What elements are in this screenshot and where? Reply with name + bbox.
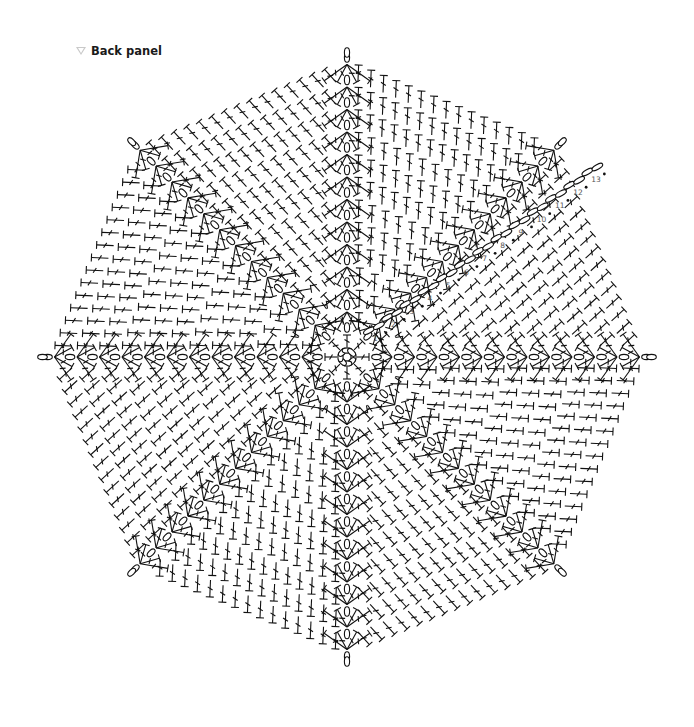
svg-text:2: 2 [391, 320, 396, 329]
svg-text:5: 5 [446, 281, 451, 290]
spoke-stitch-groups [38, 48, 657, 667]
crochet-chart: 12345678910111213 [0, 0, 694, 727]
svg-text:8: 8 [500, 241, 505, 250]
svg-text:7: 7 [482, 254, 487, 263]
svg-text:10: 10 [537, 215, 547, 224]
svg-text:9: 9 [519, 228, 524, 237]
svg-text:1: 1 [373, 334, 378, 343]
svg-text:13: 13 [591, 175, 601, 184]
svg-text:12: 12 [573, 188, 583, 197]
svg-text:11: 11 [555, 201, 565, 210]
svg-text:4: 4 [428, 294, 433, 303]
magic-ring [337, 347, 357, 367]
svg-text:6: 6 [464, 268, 469, 277]
svg-text:3: 3 [409, 307, 414, 316]
